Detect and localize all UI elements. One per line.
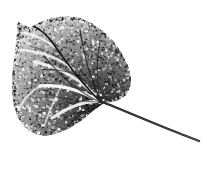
leaf-specimen-image: Leaf specimen print <box>0 0 207 175</box>
leaf-specimen-svg <box>0 0 207 175</box>
